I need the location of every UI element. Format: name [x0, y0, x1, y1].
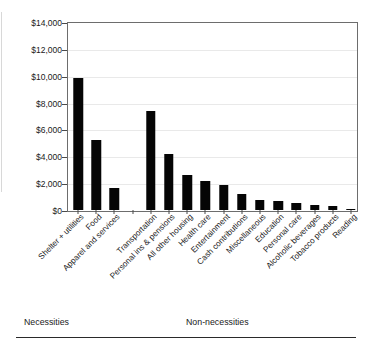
- bar[interactable]: [110, 188, 119, 210]
- y-axis-tick-label: $10,000: [31, 72, 62, 81]
- bar-slot: [105, 24, 123, 210]
- bar-slot: [87, 24, 105, 210]
- bar-slot: [269, 24, 287, 210]
- bar[interactable]: [182, 175, 191, 210]
- plot-area: [67, 22, 358, 212]
- bottom-divider: [16, 337, 356, 338]
- bar[interactable]: [92, 140, 101, 210]
- bar[interactable]: [273, 201, 282, 210]
- bar-slot: [142, 24, 160, 210]
- bar[interactable]: [292, 203, 301, 210]
- bar-slot: [305, 24, 323, 210]
- x-axis-category-labels: Shelter + utilitiesFoodApparel and servi…: [67, 213, 358, 301]
- bar[interactable]: [164, 154, 173, 210]
- bar-slot: [178, 24, 196, 210]
- bar-slot: [342, 24, 360, 210]
- bar[interactable]: [73, 78, 82, 210]
- group-label-necessities: Necessities: [24, 317, 69, 327]
- bar-series: [69, 24, 356, 210]
- bar-slot-empty: [124, 24, 142, 210]
- bar[interactable]: [201, 181, 210, 210]
- bar-slot: [233, 24, 251, 210]
- y-axis-tick-label: $4,000: [36, 153, 62, 162]
- y-axis-tick-label: $8,000: [36, 99, 62, 108]
- bar-slot: [251, 24, 269, 210]
- bar-slot: [215, 24, 233, 210]
- bar-slot: [160, 24, 178, 210]
- bar[interactable]: [255, 200, 264, 210]
- bar-slot: [287, 24, 305, 210]
- bar[interactable]: [219, 185, 228, 210]
- bar[interactable]: [146, 111, 155, 210]
- y-axis-tick-label: $6,000: [36, 126, 62, 135]
- bar-slot: [196, 24, 214, 210]
- bar-chart: $0$2,000$4,000$6,000$8,000$10,000$12,000…: [0, 0, 371, 300]
- group-label-non-necessities: Non-necessities: [186, 317, 249, 327]
- bar-slot: [69, 24, 87, 210]
- bar[interactable]: [237, 194, 246, 210]
- y-axis-tick-label: $0: [53, 207, 62, 216]
- y-axis-tick-label: $14,000: [31, 19, 62, 28]
- figure: $0$2,000$4,000$6,000$8,000$10,000$12,000…: [0, 0, 371, 350]
- bar-slot: [324, 24, 342, 210]
- y-axis-tick-label: $2,000: [36, 180, 62, 189]
- y-axis-tick-label: $12,000: [31, 46, 62, 55]
